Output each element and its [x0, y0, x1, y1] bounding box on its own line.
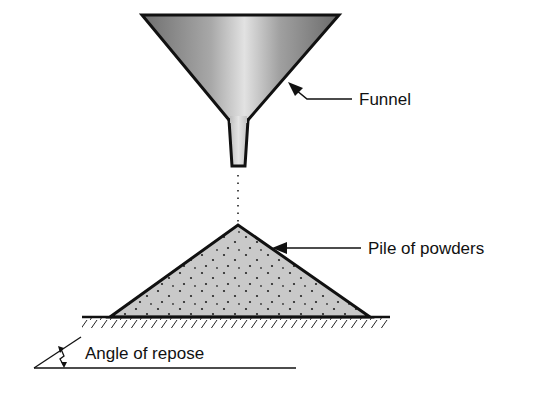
angle-label: Angle of repose [85, 344, 204, 363]
angle-indicator: Angle of repose [34, 337, 296, 368]
pile-callout: Pile of powders [272, 239, 484, 258]
funnel [142, 15, 339, 166]
angle-of-repose-diagram: Funnel Pile of powders Angle of repose [0, 0, 539, 400]
diagram-canvas: Funnel Pile of powders Angle of repose [0, 0, 539, 400]
powder-pile [110, 225, 370, 317]
funnel-callout: Funnel [288, 82, 411, 109]
funnel-leader-line [296, 90, 352, 99]
angle-slope-line [34, 337, 81, 368]
ground-hatching [82, 318, 390, 328]
funnel-neck [229, 120, 248, 166]
funnel-label: Funnel [359, 90, 411, 109]
pile-label: Pile of powders [368, 239, 484, 258]
ground [82, 317, 390, 328]
double-arrow-icon [58, 346, 67, 368]
funnel-cone [142, 15, 339, 120]
